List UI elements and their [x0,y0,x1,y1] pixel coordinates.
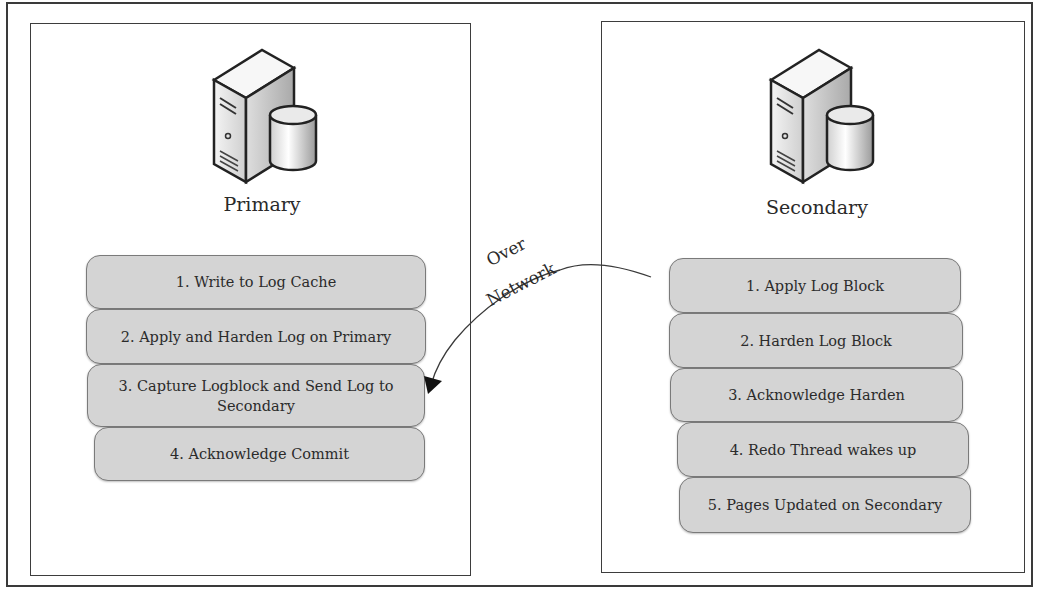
primary-step-2: 2. Apply and Harden Log on Primary [86,309,426,364]
secondary-step-1: 1. Apply Log Block [669,258,961,313]
secondary-step-4: 4. Redo Thread wakes up [677,422,969,477]
secondary-title: Secondary [717,196,917,218]
primary-step-4: 4. Acknowledge Commit [94,427,425,481]
secondary-step-2: 2. Harden Log Block [669,313,963,368]
primary-step-1: 1. Write to Log Cache [86,255,426,309]
database-server-icon [757,48,877,188]
primary-step-3: 3. Capture Logblock and Send Log to Seco… [87,364,425,427]
secondary-step-5: 5. Pages Updated on Secondary [679,477,971,533]
primary-title: Primary [162,193,362,215]
secondary-step-3: 3. Acknowledge Harden [670,368,963,422]
database-server-icon [200,48,320,188]
